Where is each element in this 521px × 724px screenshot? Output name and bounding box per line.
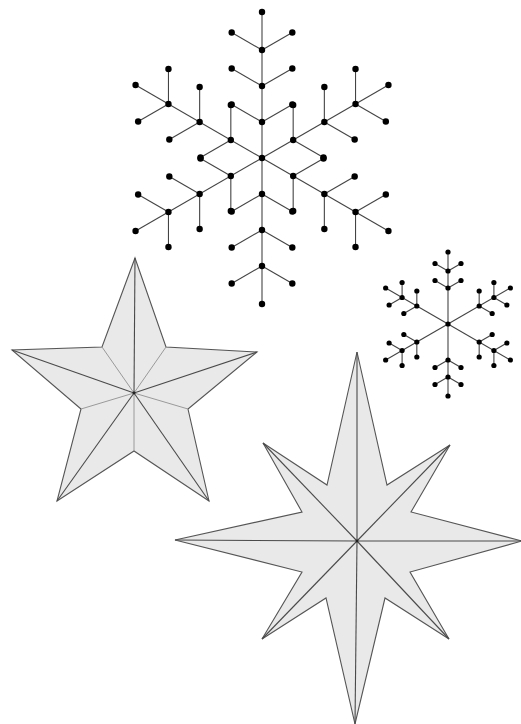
snowflake-dot — [196, 191, 202, 197]
snowflake-dot — [351, 173, 357, 179]
snowflake-dot — [259, 83, 265, 89]
snowflake-branch — [169, 122, 199, 140]
star-center-point — [356, 540, 359, 543]
snowflake-dot — [228, 102, 234, 108]
snowflake-dot — [135, 118, 141, 124]
snowflake-branch — [356, 104, 386, 122]
eight-point-compass-star-outline — [175, 352, 521, 724]
snowflake-dot — [414, 354, 419, 359]
snowflake-dot — [196, 84, 202, 90]
snowflake-dot — [383, 285, 388, 290]
snowflake-dot — [445, 249, 450, 254]
snowflake-branch — [262, 230, 292, 248]
snowflake-dot — [445, 357, 450, 362]
snowflake-branch — [232, 230, 262, 248]
snowflake-branch — [232, 69, 262, 87]
snowflake-dot — [458, 278, 463, 283]
snowflake-dot — [259, 301, 265, 307]
snowflake-branch — [201, 159, 231, 177]
snowflake-dot — [491, 363, 496, 368]
snowflake-dot — [166, 173, 172, 179]
snowflake-dot — [491, 295, 496, 300]
snowflake-dot — [414, 288, 419, 293]
snowflake-dot — [228, 137, 234, 143]
snowflake-dot — [445, 393, 450, 398]
snowflake-dot — [132, 228, 138, 234]
snowflake-dot — [504, 302, 509, 307]
snowflake-dot — [400, 363, 405, 368]
snowflake-dot — [477, 354, 482, 359]
snowflake-dot — [352, 209, 358, 215]
snowflake-branch — [232, 194, 262, 212]
snowflake-dot — [135, 191, 141, 197]
snowflake-branch — [262, 266, 292, 284]
snowflake-branch — [324, 122, 354, 140]
snowflake-dot — [414, 303, 419, 308]
snowflake-dot — [387, 302, 392, 307]
snowflake-dot — [289, 65, 295, 71]
snowflake-dot — [445, 285, 450, 290]
snowflake-dot — [228, 280, 234, 286]
snowflake-dot — [289, 208, 295, 214]
snowflake-dot — [132, 82, 138, 88]
snowflake-dot — [383, 118, 389, 124]
snowflake-dot — [508, 285, 513, 290]
snowflake-dot — [490, 332, 495, 337]
snowflake-dot — [491, 280, 496, 285]
snowflake-branch — [232, 266, 262, 284]
snowflake-dot — [385, 82, 391, 88]
snowflake-dot — [432, 278, 437, 283]
star-center-point — [133, 392, 136, 395]
snowflake-dot — [387, 340, 392, 345]
snowflake-dot — [432, 261, 437, 266]
eight-point-compass-star — [175, 352, 521, 724]
snowflake-dot — [197, 154, 203, 160]
snowflake-dot — [458, 382, 463, 387]
snowflake-dot — [259, 119, 265, 125]
snowflake-dot — [259, 47, 265, 53]
snowflake-branch — [138, 195, 168, 213]
snowflake-dot — [165, 244, 171, 250]
snowflake-dot — [196, 119, 202, 125]
snowflake-dot — [400, 295, 405, 300]
snowflake-dot — [401, 332, 406, 337]
snowflakes-layer — [132, 9, 513, 399]
snowflake-dot — [228, 208, 234, 214]
snowflake-dot — [290, 102, 296, 108]
snowflake-dot — [321, 226, 327, 232]
snowflake-branch — [262, 194, 292, 212]
snowflake-dot — [196, 226, 202, 232]
snowflake-dot — [228, 29, 234, 35]
snowflake-dot — [458, 261, 463, 266]
snowflake-dot — [166, 136, 172, 142]
snowflake-dot — [289, 280, 295, 286]
snowflake-branch — [356, 195, 386, 213]
snowflake-dot — [401, 311, 406, 316]
snowflake-dot — [458, 365, 463, 370]
snowflake-dot — [432, 365, 437, 370]
snowflake-dot — [165, 209, 171, 215]
snowflake-dot — [165, 66, 171, 72]
snowflake-dot — [432, 382, 437, 387]
snowflake-dot — [228, 173, 234, 179]
snowflake-branch — [138, 104, 168, 122]
snowflake-dot — [352, 244, 358, 250]
snowflake-branch — [262, 33, 292, 51]
snowflake-dot — [352, 101, 358, 107]
snowflake-branch — [262, 105, 292, 123]
snowflake-dot — [321, 84, 327, 90]
snowflake-dot — [320, 155, 326, 161]
snowflake-dot — [351, 136, 357, 142]
snowflake-dot — [290, 137, 296, 143]
five-point-star — [12, 258, 257, 501]
stars-layer — [12, 258, 521, 724]
snowflake-dot — [477, 339, 482, 344]
snowflake-dot — [385, 228, 391, 234]
snowflake-dot — [445, 321, 450, 326]
snowflake-dot — [259, 9, 265, 15]
snowflake-branch — [232, 105, 262, 123]
snowflake-dot — [504, 340, 509, 345]
snowflake-dot — [321, 119, 327, 125]
snowflake-branch — [324, 177, 354, 195]
snowflake-dot — [477, 303, 482, 308]
